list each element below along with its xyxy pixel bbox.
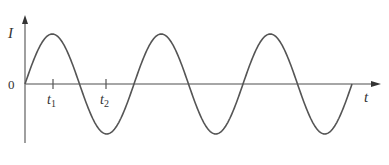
x-axis-arrow-icon: [371, 81, 381, 87]
y-axis-arrow-icon: [22, 15, 28, 24]
x-axis-label: t: [364, 89, 369, 105]
t1-label: t1: [47, 92, 56, 109]
origin-label: 0: [8, 77, 15, 92]
sine-wave-diagram: I 0 t t1 t2: [0, 0, 389, 165]
t2-label: t2: [100, 92, 109, 109]
y-axis-label: I: [7, 25, 14, 41]
